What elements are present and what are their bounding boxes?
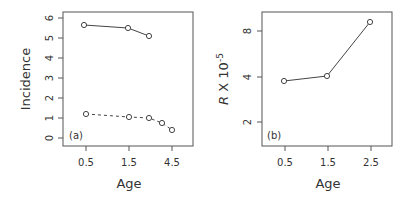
y-tick-label: 1: [44, 115, 55, 121]
y-tick-label: 5: [44, 35, 55, 41]
x-tick-label: 1.5: [320, 157, 336, 168]
panel-b: 2 4 8 R X 10-5 0.5 1.5 2.5 Age (b): [215, 12, 392, 191]
panel-a: 0 1 2 3 4 5 6 Incidence 0.5 1.5 4.5 Age: [18, 12, 193, 191]
data-point: [324, 73, 329, 78]
x-tick-label: 2.5: [363, 157, 379, 168]
data-point: [146, 33, 151, 38]
y-tick-label: 8: [242, 28, 253, 34]
x-axis-title: Age: [116, 176, 141, 191]
data-point: [169, 127, 174, 132]
figure: 0 1 2 3 4 5 6 Incidence 0.5 1.5 4.5 Age: [0, 0, 410, 200]
data-point: [146, 115, 151, 120]
panel-a-frame: [63, 12, 193, 146]
y-tick-label: 2: [242, 119, 253, 125]
y-axis-title: R X 10-5: [215, 53, 231, 105]
data-point: [126, 114, 131, 119]
series-r: [281, 19, 372, 83]
y-tick-label: 2: [44, 95, 55, 101]
panel-b-y-axis: 2 4 8 R X 10-5: [215, 28, 262, 125]
y-axis-exponent: -5: [215, 53, 225, 62]
x-tick-label: 0.5: [277, 157, 293, 168]
data-point: [159, 120, 164, 125]
data-point: [83, 111, 88, 116]
series-solid: [81, 22, 151, 38]
y-tick-label: 6: [44, 15, 55, 21]
y-tick-label: 0: [44, 135, 55, 141]
y-axis-title: Incidence: [18, 48, 33, 110]
x-tick-label: 0.5: [78, 157, 94, 168]
data-point: [367, 19, 372, 24]
data-point: [281, 78, 286, 83]
x-tick-label: 4.5: [164, 157, 180, 168]
x-axis-title: Age: [315, 176, 340, 191]
y-tick-label: 3: [44, 75, 55, 81]
panel-label: (a): [69, 130, 83, 141]
panel-b-x-axis: 0.5 1.5 2.5 Age: [277, 146, 379, 191]
panel-label: (b): [267, 130, 281, 141]
y-tick-label: 4: [44, 55, 55, 61]
data-point: [125, 25, 130, 30]
panel-a-x-axis: 0.5 1.5 4.5 Age: [78, 146, 180, 191]
x-tick-label: 1.5: [121, 157, 137, 168]
panel-a-y-axis: 0 1 2 3 4 5 6 Incidence: [18, 15, 63, 141]
data-point: [81, 22, 86, 27]
y-tick-label: 4: [242, 74, 253, 80]
series-dashed: [83, 111, 174, 132]
